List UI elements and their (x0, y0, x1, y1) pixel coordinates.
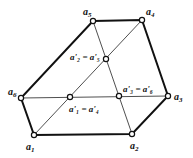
label-a4: a4 (146, 6, 155, 19)
vertex-a5 (90, 18, 95, 23)
midpoint-a3-a6 (116, 93, 121, 98)
vertex-a3 (165, 93, 170, 98)
hexagon-diagram: a1 a2 a3 a4 a5 a6 a'₂ = a'₅ a'₁ = a'₄ a'… (0, 0, 193, 158)
label-a5: a5 (83, 6, 92, 19)
hexagon-outline (21, 20, 168, 135)
label-a1p-eq-a4p: a'₁ = a'₄ (69, 104, 99, 114)
midpoint-a1-a4 (67, 94, 72, 99)
label-a3: a3 (174, 91, 183, 104)
label-a2: a2 (130, 140, 139, 153)
vertex-a6 (18, 95, 23, 100)
diagonal-a1-a4 (34, 20, 142, 135)
label-a3p-eq-a6p: a'₃ = a'₆ (123, 84, 153, 94)
midpoint-a2-a5 (103, 56, 108, 61)
vertex-a1 (31, 132, 36, 137)
vertex-a2 (129, 131, 134, 136)
label-a6: a6 (8, 86, 17, 99)
diagonal-a3-a6 (21, 96, 168, 98)
label-a1: a1 (26, 141, 35, 154)
vertex-a4 (139, 17, 144, 22)
diagonal-a2-a5 (93, 21, 132, 134)
label-a2p-eq-a5p: a'₂ = a'₅ (70, 52, 100, 62)
